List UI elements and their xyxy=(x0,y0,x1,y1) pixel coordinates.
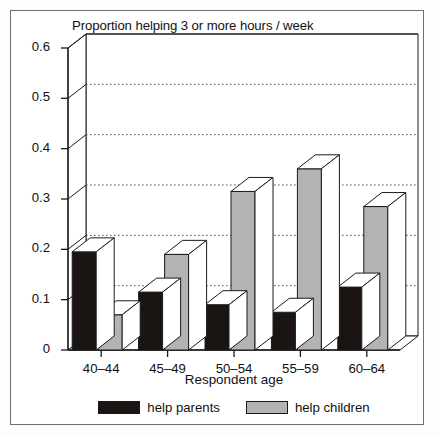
legend-swatch-help-children xyxy=(246,401,288,414)
y-axis-tick-label: 0.3 xyxy=(10,190,50,205)
y-axis-tick-label: 0.4 xyxy=(10,140,50,155)
figure-root: Proportion helping 3 or more hours / wee… xyxy=(0,0,440,436)
y-axis-tick-label: 0 xyxy=(10,341,50,356)
chart-legend: help parents help children xyxy=(68,400,400,415)
y-axis-tick-label: 0.2 xyxy=(10,240,50,255)
legend-item-help-children: help children xyxy=(246,400,370,415)
y-axis-tick-label: 0.5 xyxy=(10,89,50,104)
legend-label-help-parents: help parents xyxy=(147,400,220,415)
y-axis-tick-label: 0.6 xyxy=(10,39,50,54)
legend-swatch-help-parents xyxy=(98,401,140,414)
y-axis-tick-label: 0.1 xyxy=(10,291,50,306)
legend-item-help-parents: help parents xyxy=(98,400,220,415)
x-axis-title: Respondent age xyxy=(68,372,400,387)
legend-label-help-children: help children xyxy=(295,400,370,415)
